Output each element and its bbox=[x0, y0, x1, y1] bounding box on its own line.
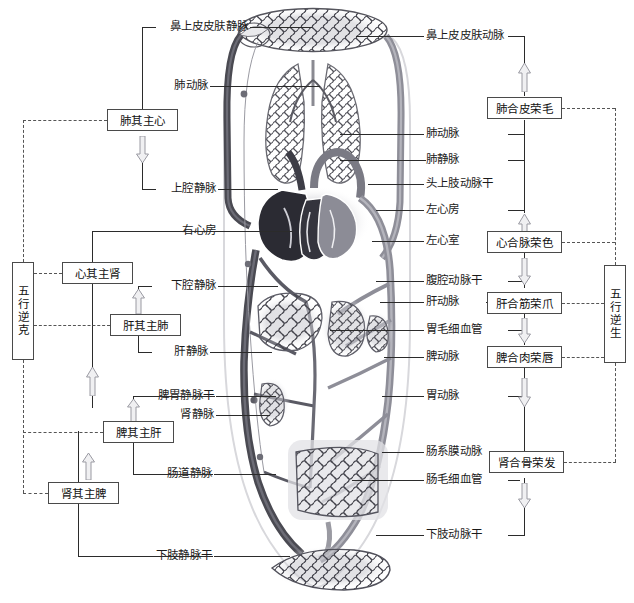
label-head-upper-limb-trunk: 头上肢动脉干 bbox=[426, 178, 493, 190]
leader-gastric-capillary bbox=[330, 330, 424, 331]
label-hepatic-artery: 肝动脉 bbox=[426, 296, 460, 308]
dash-from-liver-tendon bbox=[562, 303, 604, 304]
head-capillary-network bbox=[237, 7, 389, 53]
leader-head-upper-limb-trunk bbox=[368, 184, 424, 185]
leader-mesenteric-artery bbox=[382, 452, 424, 453]
label-pulmonary-vein: 肺静脉 bbox=[426, 154, 460, 166]
box-kidney-governs-spleen[interactable]: 肾其主脾 bbox=[48, 482, 119, 504]
leader-hepatic-vein bbox=[210, 352, 272, 353]
anatomy-illustration bbox=[210, 2, 425, 600]
label-superior-vena-cava: 上腔静脉 bbox=[171, 183, 216, 195]
dash-from-kidney-bone bbox=[564, 462, 616, 463]
leader-lower-limb-artery bbox=[376, 535, 424, 536]
dash-from-lung-skin bbox=[562, 108, 615, 109]
bracket-lung-top-stub bbox=[142, 27, 156, 28]
leader-nasal-skin-vein bbox=[250, 27, 312, 28]
bracket-heart-v1 bbox=[92, 231, 93, 262]
arrow-up-heart-kidney bbox=[86, 366, 99, 396]
leader-celiac-artery-trunk bbox=[376, 281, 424, 282]
arrow-up-liver-lung bbox=[132, 288, 145, 314]
box-spleen-pairs-flesh[interactable]: 脾合肉荣唇 bbox=[487, 346, 562, 368]
bracket-lung-bottom-stub bbox=[142, 189, 156, 190]
dash-bus-lower-right bbox=[615, 363, 616, 462]
label-splenic-artery: 脾动脉 bbox=[426, 351, 460, 363]
dash-to-liver-lung bbox=[34, 325, 110, 326]
arrow-down-kidney-lower bbox=[518, 483, 531, 509]
dash-bus-upper-left bbox=[23, 120, 24, 262]
leader-left-atrium bbox=[376, 210, 424, 211]
box-liver-pairs-tendons[interactable]: 肝合筋荣爪 bbox=[487, 292, 562, 314]
arrow-up-spleen-liver bbox=[127, 398, 140, 422]
leader-intestinal-vein bbox=[214, 474, 276, 475]
dash-bus-upper-right bbox=[615, 108, 616, 265]
box-spleen-governs-liver[interactable]: 脾其主肝 bbox=[103, 421, 174, 443]
leader-splenic-artery bbox=[384, 357, 424, 358]
leader-left-ventricle bbox=[372, 241, 424, 242]
arrow-down-heart-liver bbox=[518, 258, 531, 286]
leader-right-atrium bbox=[218, 231, 293, 232]
label-mesenteric-artery: 肠系膜动脉 bbox=[426, 446, 482, 458]
label-renal-vein: 肾静脉 bbox=[180, 409, 214, 421]
dash-bus-lower-left bbox=[23, 360, 24, 493]
lower-limb-capillary-network bbox=[268, 546, 392, 590]
bracket-liver-bot-stub bbox=[138, 352, 152, 353]
lungs bbox=[266, 60, 361, 183]
leader-pulmonary-artery-left bbox=[210, 86, 320, 87]
box-heart-governs-kidney[interactable]: 心其主肾 bbox=[62, 262, 133, 284]
box-kidney-pairs-bone[interactable]: 肾合骨荣发 bbox=[489, 451, 564, 473]
leader-nasal-skin-artery bbox=[356, 36, 424, 37]
leader-inferior-vena-cava bbox=[218, 286, 278, 287]
box-lung-pairs-skin[interactable]: 肺合皮荣毛 bbox=[487, 97, 562, 119]
stub-intest-cap bbox=[508, 480, 520, 481]
bracket-lung-upper bbox=[142, 27, 143, 109]
dash-to-spleen-liver bbox=[23, 432, 103, 433]
label-left-atrium: 左心房 bbox=[426, 204, 460, 216]
label-nasal-skin-artery: 鼻上皮皮肤动脉 bbox=[426, 30, 504, 42]
box-lung-governs-heart[interactable]: 肺其主心 bbox=[107, 109, 178, 131]
label-intestinal-capillary: 肠毛细血管 bbox=[426, 474, 482, 486]
stub-lower-limb-art bbox=[508, 535, 525, 536]
arrow-down-spleen-kidney bbox=[518, 378, 531, 408]
dash-to-kidney-spleen bbox=[23, 493, 48, 494]
label-celiac-artery-trunk: 腹腔动脉干 bbox=[426, 275, 482, 287]
label-nasal-skin-vein: 鼻上皮皮肤静脉 bbox=[170, 21, 248, 33]
box-wuxing-reverse-generation[interactable]: 五行逆生 bbox=[604, 265, 626, 363]
label-gastric-capillary: 胃毛细血管 bbox=[426, 324, 482, 336]
leader-gastric-artery bbox=[382, 396, 424, 397]
bracket-kidney-bot bbox=[78, 556, 213, 557]
label-hepatic-vein: 肝静脉 bbox=[174, 346, 208, 358]
leader-splenogastric-trunk bbox=[216, 396, 276, 397]
label-left-ventricle: 左心室 bbox=[426, 235, 460, 247]
arrow-down-liver-spleen bbox=[518, 318, 531, 344]
bracket-spleen-top bbox=[133, 396, 215, 397]
arrow-down-lung-heart bbox=[136, 136, 149, 164]
leader-pulmonary-vein bbox=[340, 160, 426, 161]
leader-lower-limb-vein-trunk bbox=[214, 556, 290, 557]
box-wuxing-reverse-restraint[interactable]: 五行逆克 bbox=[12, 262, 34, 360]
leader-superior-vena-cava bbox=[218, 189, 278, 190]
arrow-up-kidney-spleen bbox=[82, 452, 95, 480]
intestine-capillary-network bbox=[288, 440, 388, 554]
bracket-spleen-v2 bbox=[133, 443, 134, 474]
label-gastric-artery: 胃动脉 bbox=[426, 390, 460, 402]
bracket-liver-lower bbox=[138, 336, 139, 352]
label-pulmonary-artery-left: 肺动脉 bbox=[174, 80, 208, 92]
stub-left-atrium bbox=[508, 210, 525, 211]
box-liver-governs-lung[interactable]: 肝其主肺 bbox=[110, 314, 181, 336]
dash-from-spleen-flesh bbox=[562, 357, 604, 358]
bracket-liver-top-stub bbox=[138, 286, 152, 287]
leader-intestinal-capillary bbox=[352, 480, 424, 481]
leader-pulmonary-artery-right bbox=[340, 134, 424, 135]
bracket-heart-top bbox=[92, 231, 218, 232]
leader-hepatic-artery bbox=[380, 302, 424, 303]
label-inferior-vena-cava: 下腔静脉 bbox=[171, 280, 216, 292]
bracket-spleen-bot bbox=[133, 474, 213, 475]
stub-pulm-artery bbox=[508, 134, 525, 135]
box-heart-pairs-vessels[interactable]: 心合脉荣色 bbox=[487, 231, 562, 253]
stub-nasal-artery bbox=[508, 36, 525, 37]
label-lower-limb-artery: 下肢动脉干 bbox=[426, 529, 482, 541]
dash-to-heart-kidney bbox=[34, 273, 62, 274]
spleen bbox=[363, 312, 393, 352]
stub-pulm-vein bbox=[508, 160, 525, 161]
dash-to-lung-heart bbox=[23, 120, 107, 121]
